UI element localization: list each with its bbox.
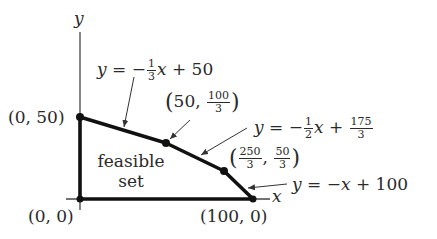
- vertex-0-50: [76, 113, 84, 121]
- vertex-label-origin: (0, 0): [28, 208, 74, 225]
- feasible-set-label: feasible set: [96, 151, 166, 192]
- constraint-label-2: y = −12x + 1753: [254, 116, 374, 140]
- constraint-label-1: y = −13x + 50: [97, 58, 213, 82]
- vertex-label-50-100-3: (50, 1003): [165, 90, 240, 114]
- vertex-label-0-50: (0, 50): [8, 109, 65, 126]
- vertex-label-100-0: (100, 0): [200, 208, 267, 225]
- x-axis-label: x: [272, 188, 282, 205]
- vertex-label-250-3-50-3: (2503, 503): [229, 146, 300, 170]
- y-axis-label: y: [74, 10, 84, 27]
- arrow-v1: [170, 120, 190, 139]
- arrow-c1: [124, 77, 134, 127]
- vertex-50-100-3: [162, 139, 170, 147]
- vertex-100-0: [250, 196, 257, 203]
- constraint-label-3: y = −x + 100: [292, 176, 408, 193]
- vertex-250-3-50-3: [220, 167, 228, 175]
- vertex-origin: [77, 196, 84, 203]
